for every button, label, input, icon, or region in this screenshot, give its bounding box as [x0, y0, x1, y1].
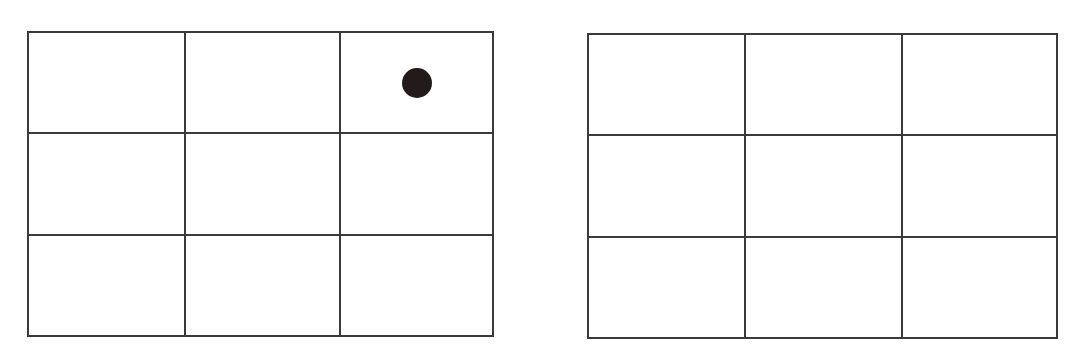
right-cell-r1c3[interactable]	[903, 35, 1056, 134]
left-grid	[27, 31, 494, 337]
left-cell-r2c2[interactable]	[186, 134, 339, 234]
right-cell-r3c2[interactable]	[746, 238, 901, 337]
right-cell-r2c1[interactable]	[589, 136, 744, 236]
right-cell-r3c1[interactable]	[589, 238, 744, 337]
left-cell-r3c1[interactable]	[29, 236, 184, 335]
left-cell-r3c3[interactable]	[341, 236, 492, 335]
right-cell-r3c3[interactable]	[903, 238, 1056, 337]
right-grid	[587, 33, 1058, 339]
right-cell-r2c2[interactable]	[746, 136, 901, 236]
left-cell-r1c3[interactable]	[341, 33, 492, 132]
left-cell-r2c1[interactable]	[29, 134, 184, 234]
right-cell-r1c1[interactable]	[589, 35, 744, 134]
left-cell-r1c2[interactable]	[186, 33, 339, 132]
right-cell-r2c3[interactable]	[903, 136, 1056, 236]
right-cell-r1c2[interactable]	[746, 35, 901, 134]
left-cell-r1c1[interactable]	[29, 33, 184, 132]
dot-token	[402, 68, 432, 98]
left-cell-r2c3[interactable]	[341, 134, 492, 234]
left-cell-r3c2[interactable]	[186, 236, 339, 335]
